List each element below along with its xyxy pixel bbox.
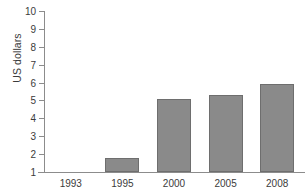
bar-chart: US dollars 10987654321 19931995200020052… xyxy=(0,0,307,196)
bar-2005[interactable] xyxy=(209,95,243,172)
y-tick-label: 7 xyxy=(30,59,36,70)
plot-area: 10987654321 19931995200020052008 xyxy=(44,11,303,172)
x-axis-line xyxy=(38,172,305,173)
y-tick-label: 1 xyxy=(30,167,36,178)
bar-group: 19931995200020052008 xyxy=(45,11,303,172)
x-tick-label: 1993 xyxy=(60,178,82,189)
y-tick-mark xyxy=(39,136,44,137)
y-tick-mark xyxy=(39,47,44,48)
y-tick-label: 10 xyxy=(25,6,36,17)
bar-2000[interactable] xyxy=(157,99,191,172)
y-tick-mark xyxy=(39,11,44,12)
y-tick-label: 5 xyxy=(30,95,36,106)
bar-column xyxy=(105,11,139,172)
y-tick-mark xyxy=(39,172,44,173)
y-tick-mark xyxy=(39,100,44,101)
x-tick-label: 2000 xyxy=(163,178,185,189)
x-tick-label: 2005 xyxy=(214,178,236,189)
y-tick-label: 3 xyxy=(30,131,36,142)
y-axis-title: US dollars xyxy=(11,13,23,103)
bar-column xyxy=(54,11,88,172)
x-tick-label: 2008 xyxy=(266,178,288,189)
bar-column xyxy=(157,11,191,172)
bar-2008[interactable] xyxy=(260,84,294,172)
y-tick-mark xyxy=(39,65,44,66)
y-tick-label: 8 xyxy=(30,41,36,52)
y-tick-mark xyxy=(39,154,44,155)
x-tick-label: 1995 xyxy=(111,178,133,189)
bar-slot: 2008 xyxy=(251,11,303,172)
y-tick-label: 4 xyxy=(30,113,36,124)
y-tick-mark xyxy=(39,83,44,84)
bar-column xyxy=(209,11,243,172)
bar-slot: 2000 xyxy=(148,11,200,172)
bar-1995[interactable] xyxy=(105,158,139,172)
y-tick-label: 9 xyxy=(30,23,36,34)
y-tick-label: 6 xyxy=(30,77,36,88)
bar-column xyxy=(260,11,294,172)
bar-slot: 2005 xyxy=(200,11,252,172)
bar-slot: 1995 xyxy=(97,11,149,172)
y-tick-mark xyxy=(39,118,44,119)
y-tick-mark xyxy=(39,29,44,30)
y-tick-label: 2 xyxy=(30,149,36,160)
bar-slot: 1993 xyxy=(45,11,97,172)
